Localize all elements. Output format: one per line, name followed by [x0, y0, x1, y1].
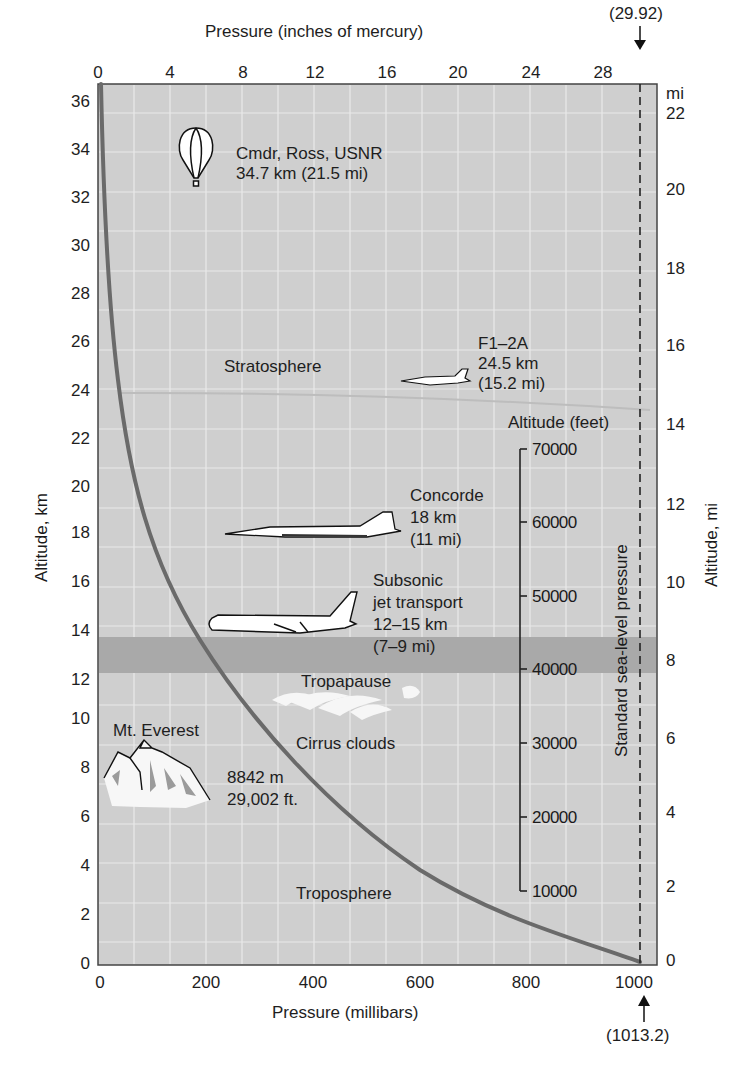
y-tick: 32 — [60, 189, 90, 206]
y-tick: 28 — [60, 285, 90, 302]
y-tick: 34 — [60, 141, 90, 158]
subsonic-km: 12–15 km — [373, 615, 448, 634]
top-axis-title: Pressure (inches of mercury) — [205, 22, 423, 41]
y2-tick: 18 — [666, 260, 685, 277]
feet-tick: 20000 — [532, 809, 577, 826]
feet-tick: 70000 — [532, 441, 577, 458]
x2-tick: 4 — [165, 64, 174, 81]
y2-tick: 10 — [666, 574, 685, 591]
y-tick: 2 — [60, 906, 90, 923]
x-tick: 1000 — [615, 974, 653, 991]
everest-label: Mt. Everest — [113, 721, 199, 740]
feet-tick: 10000 — [532, 883, 577, 900]
y-tick: 16 — [60, 573, 90, 590]
y-tick: 6 — [60, 808, 90, 825]
left-axis-title: Altitude, km — [32, 493, 52, 582]
y2-tick: 0 — [666, 952, 675, 969]
y-tick: 0 — [60, 955, 90, 972]
y-tick: 26 — [60, 333, 90, 350]
y2-tick: 8 — [666, 652, 675, 669]
troposphere-label: Troposphere — [296, 884, 392, 903]
feet-tick: 40000 — [532, 661, 577, 678]
f12a-label: F1–2A — [478, 334, 528, 353]
balloon-altitude: 34.7 km (21.5 mi) — [236, 164, 368, 183]
feet-scale-title: Altitude (feet) — [508, 413, 609, 432]
everest-ft: 29,002 ft. — [227, 790, 298, 809]
f12a-km: 24.5 km — [478, 354, 538, 373]
x-tick: 400 — [299, 974, 327, 991]
cirrus-label: Cirrus clouds — [296, 734, 395, 753]
y-tick: 12 — [60, 671, 90, 688]
y-tick: 4 — [60, 857, 90, 874]
bottom-axis-title: Pressure (millibars) — [272, 1003, 418, 1022]
y2-tick: 6 — [666, 730, 675, 747]
y-tick: 14 — [60, 622, 90, 639]
feet-tick: 50000 — [532, 588, 577, 605]
everest-m: 8842 m — [227, 768, 284, 787]
y2-tick: 4 — [666, 804, 675, 821]
x2-tick: 20 — [449, 64, 468, 81]
feet-tick: 30000 — [532, 735, 577, 752]
x2-tick: 28 — [594, 64, 613, 81]
y-tick: 10 — [60, 710, 90, 727]
tropapause-label: Tropapause — [301, 672, 391, 691]
bottom-arrow-icon — [638, 995, 650, 1022]
right-axis-title: Altitude, mi — [702, 503, 722, 587]
y-tick: 8 — [60, 759, 90, 776]
balloon-label: Cmdr, Ross, USNR — [236, 144, 382, 163]
f12a-mi: (15.2 mi) — [478, 374, 545, 393]
y-tick: 36 — [60, 93, 90, 110]
x-tick: 200 — [192, 974, 220, 991]
y2-tick: 20 — [666, 181, 685, 198]
x-tick: 800 — [512, 974, 540, 991]
right-unit-label: mi — [666, 84, 684, 103]
y2-tick: 2 — [666, 878, 675, 895]
subsonic-label-2: jet transport — [373, 593, 463, 612]
x2-tick: 16 — [378, 64, 397, 81]
y-tick: 20 — [60, 478, 90, 495]
y2-tick: 16 — [666, 337, 685, 354]
y-tick: 30 — [60, 237, 90, 254]
x2-tick: 12 — [306, 64, 325, 81]
concorde-km: 18 km — [410, 508, 456, 527]
x2-tick: 24 — [522, 64, 541, 81]
y-tick: 18 — [60, 524, 90, 541]
concorde-mi: (11 mi) — [410, 530, 462, 549]
y-tick: 22 — [60, 430, 90, 447]
x-tick: 0 — [95, 974, 104, 991]
top-arrow-icon — [634, 26, 646, 50]
y2-tick: 12 — [666, 496, 685, 513]
y2-tick: 14 — [666, 416, 685, 433]
y-tick: 24 — [60, 382, 90, 399]
top-marker-label: (29.92) — [609, 4, 663, 23]
x-tick: 600 — [406, 974, 434, 991]
x2-tick: 8 — [238, 64, 247, 81]
x2-tick: 0 — [93, 64, 102, 81]
sea-level-pressure-label: Standard sea-level pressure — [612, 544, 632, 757]
feet-tick: 60000 — [532, 514, 577, 531]
concorde-label: Concorde — [410, 486, 484, 505]
y2-tick: 22 — [666, 105, 685, 122]
subsonic-label-1: Subsonic — [373, 571, 443, 590]
bottom-marker-label: (1013.2) — [606, 1026, 669, 1045]
subsonic-mi: (7–9 mi) — [373, 637, 435, 656]
stratosphere-label: Stratosphere — [224, 357, 321, 376]
